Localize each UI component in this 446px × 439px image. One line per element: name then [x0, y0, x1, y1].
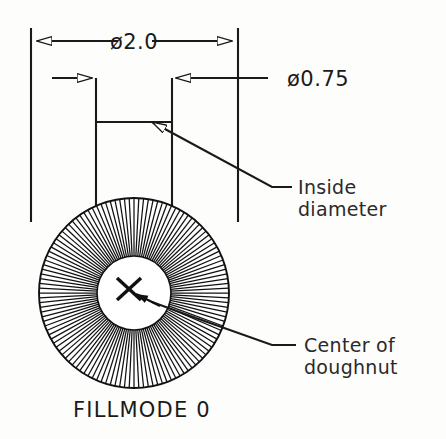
leader-label-inside-diameter-line2: diameter — [298, 198, 387, 220]
leader-label-center-of-doughnut-line2: doughnut — [304, 356, 398, 378]
dimension-label-inside-diameter: ø0.75 — [287, 67, 349, 91]
technical-drawing-figure: ø2.0 ø0.75 Inside diameter Center of dou… — [0, 0, 446, 439]
leader-label-center-of-doughnut-line1: Center of — [304, 334, 396, 356]
drawing-canvas: ø2.0 ø0.75 Inside diameter Center of dou… — [0, 0, 446, 439]
dimension-label-outside-diameter: ø2.0 — [110, 30, 158, 54]
fillmode-caption: FILLMODE 0 — [73, 398, 211, 422]
leader-label-inside-diameter-line1: Inside — [298, 176, 356, 198]
